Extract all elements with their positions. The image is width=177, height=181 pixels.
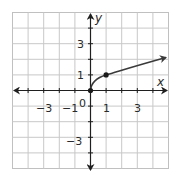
point-1-1 (104, 72, 109, 77)
point-origin (88, 88, 93, 93)
y-tick-label-3: 3 (77, 38, 84, 51)
x-tick-label-1: 1 (103, 102, 110, 115)
sqrt-curve (91, 58, 167, 91)
origin-label: 0 (79, 97, 86, 110)
y-tick-label-1: 1 (77, 69, 84, 82)
y-axis-label: y (94, 11, 103, 25)
x-tick-label-neg3: −3 (36, 102, 52, 115)
y-tick-label-neg3: −3 (66, 135, 82, 148)
x-tick-label-neg1: −1 (62, 102, 78, 115)
coordinate-plane: y x −3 −1 0 1 3 3 1 −3 (0, 0, 177, 181)
x-axis-label: x (156, 75, 165, 89)
x-tick-label-3: 3 (134, 102, 141, 115)
